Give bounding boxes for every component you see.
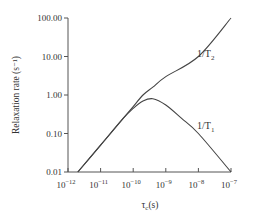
x-tick-label: 10−9 [156,178,172,190]
series-lines [78,18,231,172]
y-tick-label: 100.00 [37,13,62,23]
x-axis-title: τc(s) [142,200,159,212]
series-line-1-t2 [78,18,231,172]
relaxation-rate-chart: 100.0010.001.000.100.01 10−1210−1110−101… [0,0,253,218]
x-tick-label: 10−11 [89,178,108,190]
y-tick-label: 0.01 [46,167,62,177]
series-line-1-t1 [78,99,231,172]
x-tick-label: 10−8 [188,178,204,190]
y-ticks: 100.0010.001.000.100.01 [37,13,68,177]
y-tick-label: 10.00 [42,52,63,62]
x-ticks: 10−1210−1110−1010−910−810−7 [56,168,237,190]
series-label-t2: 1/T2 [197,48,215,62]
y-tick-label: 0.10 [46,129,62,139]
y-axis-title: Relaxation rate (s⁻¹) [11,56,22,134]
series-label-t1: 1/T1 [197,120,215,134]
x-tick-label: 10−10 [122,178,141,190]
x-tick-label: 10−12 [56,178,75,190]
x-tick-label: 10−7 [221,178,238,190]
y-tick-label: 1.00 [46,90,62,100]
